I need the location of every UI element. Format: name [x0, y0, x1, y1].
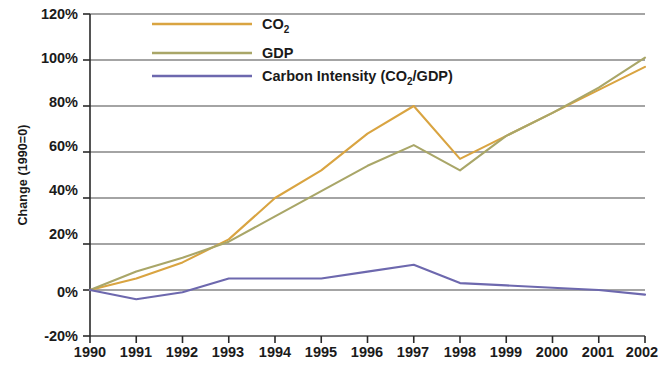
series-line	[90, 58, 645, 290]
legend-labels: CO2GDPCarbon Intensity (CO2/GDP)	[262, 16, 453, 87]
x-axis-ticks	[90, 336, 645, 343]
y-axis-ticks	[83, 14, 90, 336]
legend-swatches	[152, 24, 252, 76]
legend-label: Carbon Intensity (CO2/GDP)	[262, 68, 453, 87]
series-line	[90, 265, 645, 300]
series-lines	[90, 58, 645, 300]
legend-label: GDP	[262, 45, 294, 61]
series-line	[90, 67, 645, 290]
legend-label: CO2	[262, 16, 290, 35]
